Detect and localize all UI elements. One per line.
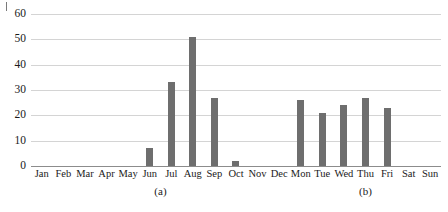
x-tick-label: Sun <box>419 168 441 180</box>
bar-slot <box>96 14 118 166</box>
bar-slot <box>355 14 377 166</box>
x-tick-label: Wed <box>333 168 355 180</box>
bar <box>189 37 196 166</box>
x-tick-label: Sat <box>398 168 420 180</box>
bar-slot <box>160 14 182 166</box>
x-tick-label: Mar <box>74 168 96 180</box>
x-tick-label: Oct <box>225 168 247 180</box>
bar <box>297 100 304 166</box>
axis-corner-tick <box>6 2 7 11</box>
x-tick-label: Nov <box>247 168 269 180</box>
x-axis-labels: JanFebMarAprMayJunJulAugSepOctNovDecMonT… <box>31 168 441 180</box>
y-tick-label: 10 <box>15 135 27 147</box>
x-tick-label: Sep <box>204 168 226 180</box>
y-tick-label: 50 <box>15 34 27 46</box>
bar <box>319 113 326 166</box>
bar-slot <box>204 14 226 166</box>
bar-slot <box>333 14 355 166</box>
x-tick-label: Apr <box>96 168 118 180</box>
bar-slot <box>53 14 75 166</box>
x-tick-label: May <box>117 168 139 180</box>
bar-slot <box>139 14 161 166</box>
bar-chart: 0102030405060 JanFebMarAprMayJunJulAugSe… <box>0 0 448 212</box>
x-tick-label: Jun <box>139 168 161 180</box>
axis-line-zero: 0 <box>31 166 441 167</box>
group-caption: (a) <box>154 186 166 197</box>
x-tick-label: Jan <box>31 168 53 180</box>
bar <box>340 105 347 166</box>
bar-slot <box>290 14 312 166</box>
bars-group <box>31 14 441 166</box>
bar-slot <box>225 14 247 166</box>
x-tick-label: Mon <box>290 168 312 180</box>
x-tick-label: Fri <box>376 168 398 180</box>
y-tick-label: 60 <box>15 8 27 20</box>
bar-slot <box>247 14 269 166</box>
y-tick-label: 30 <box>15 84 27 96</box>
group-caption: (b) <box>359 186 372 197</box>
bar-slot <box>419 14 441 166</box>
x-tick-label: Tue <box>312 168 334 180</box>
x-tick-label: Aug <box>182 168 204 180</box>
bar-slot <box>268 14 290 166</box>
x-tick-label: Thu <box>355 168 377 180</box>
bar-slot <box>182 14 204 166</box>
bar <box>384 108 391 166</box>
x-tick-label: Jul <box>160 168 182 180</box>
bar-slot <box>74 14 96 166</box>
y-tick-label: 0 <box>20 160 26 172</box>
bar-slot <box>312 14 334 166</box>
bar <box>362 98 369 166</box>
bar <box>211 98 218 166</box>
bar-slot <box>31 14 53 166</box>
x-tick-label: Dec <box>268 168 290 180</box>
bar <box>168 82 175 166</box>
bar-slot <box>117 14 139 166</box>
plot-area: 0102030405060 <box>31 14 441 166</box>
bar-slot <box>398 14 420 166</box>
y-tick-label: 40 <box>15 59 27 71</box>
x-tick-label: Feb <box>53 168 75 180</box>
group-captions: (a)(b) <box>31 186 441 204</box>
y-tick-label: 20 <box>15 110 27 122</box>
bar <box>232 161 239 166</box>
bar <box>146 148 153 166</box>
bar-slot <box>376 14 398 166</box>
